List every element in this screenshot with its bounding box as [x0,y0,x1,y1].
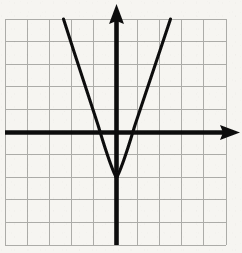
worksheet-page: 33. [0,0,242,253]
coordinate-graph [0,0,242,253]
paper-background [0,0,242,253]
graph-plate [0,0,242,253]
